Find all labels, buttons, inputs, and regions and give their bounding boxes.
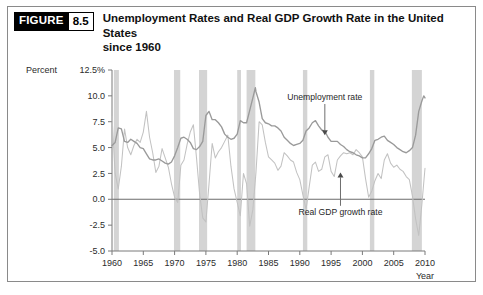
x-axis-tick-label: 1985 <box>258 258 278 268</box>
series-line-real-gdp-growth-rate <box>112 111 425 235</box>
figure-badge-word: FIGURE <box>14 12 69 31</box>
x-axis-tick-label: 1980 <box>227 258 247 268</box>
x-axis-tick-label: 1990 <box>290 258 310 268</box>
x-axis-tick-label: 2010 <box>415 258 435 268</box>
y-axis-tick-label: -2.5 <box>89 220 105 230</box>
x-axis-tick-label: 2005 <box>384 258 404 268</box>
y-axis-tick-label: 7.5 <box>92 117 105 127</box>
x-axis-tick-label: 1975 <box>196 258 216 268</box>
series-annotation-label: Real GDP growth rate <box>299 207 383 217</box>
recession-band <box>237 70 241 251</box>
annotation-arrow-head <box>337 172 343 177</box>
figure-title-line-1: Unemployment Rates and Real GDP Growth R… <box>103 12 444 39</box>
y-axis-tick-label: 12.5% <box>79 65 105 75</box>
x-axis-tick-label: 1965 <box>133 258 153 268</box>
chart-area: 12.5%10.07.55.02.50.0-2.5-5.0Percent1960… <box>0 52 483 282</box>
x-axis-tick-label: 1960 <box>102 258 122 268</box>
series-annotation-label: Unemployment rate <box>287 92 362 102</box>
y-axis-tick-label: -5.0 <box>89 246 105 256</box>
chart-axes <box>112 70 425 251</box>
figure-title: Unemployment Rates and Real GDP Growth R… <box>103 11 466 55</box>
figure-badge-number: 8.5 <box>69 12 94 31</box>
unemployment-gdp-line-chart: 12.5%10.07.55.02.50.0-2.5-5.0Percent1960… <box>0 52 483 282</box>
recession-band <box>199 70 207 251</box>
figure-badge: FIGURE 8.5 <box>14 12 94 31</box>
y-axis-title: Percent <box>26 65 58 75</box>
recession-band <box>370 70 374 251</box>
series-line-unemployment-rate <box>112 88 425 165</box>
figure-container: FIGURE 8.5 Unemployment Rates and Real G… <box>0 0 483 295</box>
recession-band <box>174 70 180 251</box>
x-axis-title: Year <box>416 271 434 281</box>
x-axis-tick-label: 1970 <box>165 258 185 268</box>
figure-header: FIGURE 8.5 Unemployment Rates and Real G… <box>14 11 466 55</box>
y-axis-tick-label: 10.0 <box>87 91 105 101</box>
y-axis-tick-label: 5.0 <box>92 143 105 153</box>
y-axis-tick-label: 0.0 <box>92 194 105 204</box>
x-axis-tick-label: 2000 <box>352 258 372 268</box>
x-axis-tick-label: 1995 <box>321 258 341 268</box>
recession-band <box>247 70 256 251</box>
y-axis-tick-label: 2.5 <box>92 169 105 179</box>
